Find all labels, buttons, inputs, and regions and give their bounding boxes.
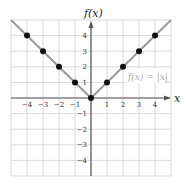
data-point — [24, 33, 30, 39]
data-point — [72, 79, 78, 85]
x-axis-arrow-icon — [164, 96, 171, 101]
x-tick-label: 3 — [137, 101, 141, 109]
data-point — [136, 48, 142, 54]
x-tick-label: 2 — [121, 101, 125, 109]
y-tick-label: 3 — [83, 48, 87, 56]
x-tick-label: −4 — [22, 101, 33, 109]
data-point — [56, 64, 62, 70]
x-tick-label: −1 — [70, 101, 80, 109]
data-point — [88, 95, 94, 101]
data-point — [40, 48, 46, 54]
y-tick-label: 1 — [83, 79, 87, 87]
x-tick-label: −3 — [38, 101, 48, 109]
x-tick-label: 1 — [105, 101, 109, 109]
data-point — [152, 33, 158, 39]
absolute-value-graph: −4−3−2−112344321−1−2−3−4 f(x) = |x| f(x)… — [0, 0, 187, 189]
x-tick-label: −2 — [54, 101, 64, 109]
function-label: f(x) = |x| — [127, 72, 168, 83]
data-point — [120, 64, 126, 70]
y-tick-label: −1 — [77, 110, 87, 118]
data-point — [104, 79, 110, 85]
y-axis-label: f(x) — [83, 7, 103, 20]
y-tick-label: −4 — [77, 157, 88, 165]
x-tick-label: 4 — [153, 101, 158, 109]
y-axis-arrow-icon — [89, 21, 94, 28]
y-tick-label: 2 — [83, 63, 87, 71]
x-axis-label: x — [174, 92, 181, 105]
y-tick-label: −2 — [77, 126, 87, 134]
y-tick-label: 4 — [83, 32, 88, 40]
y-tick-label: −3 — [77, 141, 87, 149]
